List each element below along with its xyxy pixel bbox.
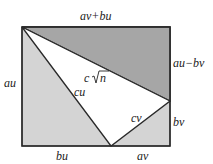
label-bottom-right: av bbox=[137, 149, 149, 163]
label-top: av+bu bbox=[80, 9, 111, 23]
label-leg-long: cu bbox=[74, 85, 85, 99]
label-right-lower: bv bbox=[173, 115, 185, 129]
label-leg-short: cv bbox=[131, 111, 142, 125]
diagram-canvas: av+bu au−bv bv au bu av cu cv c n bbox=[0, 0, 213, 164]
label-bottom-left: bu bbox=[56, 149, 68, 163]
svg-text:n: n bbox=[100, 71, 106, 85]
label-left: au bbox=[4, 76, 16, 90]
label-right-upper: au−bv bbox=[173, 56, 205, 70]
svg-text:c: c bbox=[84, 71, 90, 85]
